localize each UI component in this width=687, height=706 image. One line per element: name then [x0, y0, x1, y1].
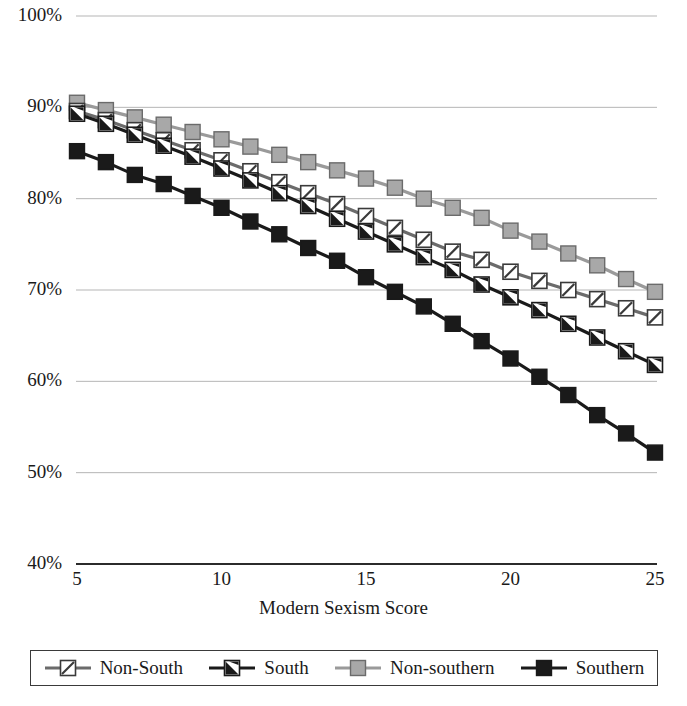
x-tick-20: 20	[481, 568, 541, 590]
data-point-south-4	[185, 149, 200, 164]
data-point-legend-lg	[536, 661, 551, 676]
data-point-non-southern-3	[156, 117, 171, 132]
data-point-south-9	[330, 211, 345, 226]
data-point-non-southern-14	[474, 210, 489, 225]
data-point-south-2	[127, 127, 142, 142]
x-tick-15: 15	[336, 568, 396, 590]
data-point-non-southern-15	[503, 223, 518, 238]
data-point-south-12	[416, 250, 431, 265]
data-point-non-southern-13	[445, 200, 460, 215]
data-point-south-1	[98, 116, 113, 131]
data-point-non-southern-9	[330, 163, 345, 178]
data-point-non-south-14	[474, 252, 489, 267]
legend-marker-square-black-diagonal-icon	[208, 657, 256, 679]
y-tick-50pct: 50%	[0, 461, 62, 483]
legend-label: Non-South	[98, 657, 183, 679]
marker-square	[301, 155, 316, 170]
data-point-non-south-13	[445, 244, 460, 259]
marker-square	[185, 188, 200, 203]
data-point-southern-7	[272, 227, 287, 242]
marker-square	[561, 388, 576, 403]
marker-square	[532, 369, 547, 384]
data-point-non-south-18	[590, 292, 605, 307]
data-point-non-southern-4	[185, 124, 200, 139]
data-point-south-3	[156, 138, 171, 153]
marker-square	[387, 180, 402, 195]
legend-marker-square-white-diagonal-icon	[44, 657, 92, 679]
data-point-southern-10	[359, 270, 374, 285]
x-axis-title: Modern Sexism Score	[0, 597, 687, 619]
data-point-non-southern-12	[416, 191, 431, 206]
marker-square	[98, 155, 113, 170]
marker-square	[387, 284, 402, 299]
x-tick-25: 25	[625, 568, 685, 590]
marker-square	[214, 200, 229, 215]
data-point-non-southern-10	[359, 171, 374, 186]
data-point-legend-lg	[350, 661, 365, 676]
marker-square	[350, 661, 365, 676]
legend-label: South	[262, 657, 308, 679]
data-point-non-south-11	[387, 220, 402, 235]
data-point-non-south-17	[561, 283, 576, 298]
series-southern	[70, 144, 663, 460]
data-point-non-southern-6	[243, 139, 258, 154]
legend-marker-square-gray-icon	[334, 657, 382, 679]
marker-square	[156, 177, 171, 192]
data-point-non-south-19	[619, 301, 634, 316]
data-point-southern-16	[532, 369, 547, 384]
legend-label: Southern	[574, 657, 645, 679]
marker-square	[445, 200, 460, 215]
data-point-south-7	[272, 186, 287, 201]
series-south	[70, 106, 663, 372]
data-point-non-south-16	[532, 273, 547, 288]
data-point-southern-19	[619, 426, 634, 441]
marker-square	[359, 270, 374, 285]
marker-square	[474, 210, 489, 225]
marker-square	[474, 334, 489, 349]
y-tick-100pct: 100%	[0, 4, 62, 26]
legend-item-non-southern[interactable]: Non-southern	[334, 657, 494, 679]
data-point-southern-18	[590, 408, 605, 423]
data-point-south-0	[70, 106, 85, 121]
marker-square	[156, 117, 171, 132]
data-point-southern-9	[330, 253, 345, 268]
marker-square	[185, 124, 200, 139]
legend-item-southern[interactable]: Southern	[520, 657, 645, 679]
data-point-southern-15	[503, 351, 518, 366]
data-point-south-19	[619, 344, 634, 359]
marker-square	[416, 191, 431, 206]
marker-square	[619, 272, 634, 287]
y-tick-70pct: 70%	[0, 278, 62, 300]
series-non-south	[70, 103, 663, 324]
data-point-non-southern-16	[532, 234, 547, 249]
marker-square	[272, 147, 287, 162]
legend-item-non-south[interactable]: Non-South	[44, 657, 183, 679]
x-tick-5: 5	[47, 568, 107, 590]
data-point-south-17	[561, 316, 576, 331]
data-point-non-south-15	[503, 264, 518, 279]
data-point-southern-13	[445, 316, 460, 331]
marker-square	[416, 299, 431, 314]
marker-square	[536, 661, 551, 676]
data-point-south-11	[387, 237, 402, 252]
x-tick-10: 10	[192, 568, 252, 590]
data-point-southern-2	[127, 167, 142, 182]
marker-square	[503, 223, 518, 238]
marker-square	[532, 234, 547, 249]
data-point-southern-1	[98, 155, 113, 170]
data-point-south-8	[301, 198, 316, 213]
data-point-southern-8	[301, 240, 316, 255]
marker-square	[590, 408, 605, 423]
marker-square	[359, 171, 374, 186]
data-point-south-14	[474, 277, 489, 292]
data-point-south-5	[214, 161, 229, 176]
data-point-south-18	[590, 330, 605, 345]
data-point-non-southern-5	[214, 132, 229, 147]
legend-item-south[interactable]: South	[208, 657, 308, 679]
data-point-south-15	[503, 290, 518, 305]
legend-label: Non-southern	[388, 657, 494, 679]
marker-square	[619, 426, 634, 441]
data-point-southern-14	[474, 334, 489, 349]
marker-square	[561, 246, 576, 261]
marker-square	[503, 351, 518, 366]
